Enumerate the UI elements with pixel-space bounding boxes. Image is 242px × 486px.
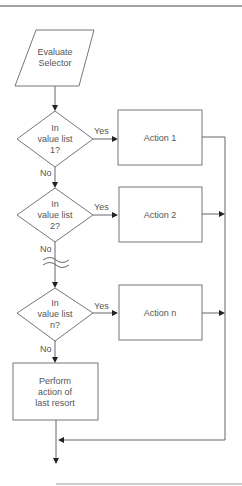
- start-label-line-1: Evaluate: [37, 47, 72, 57]
- fallback-line-1: Perform: [39, 376, 71, 386]
- arrow-head-icon: [219, 310, 225, 316]
- arrow-head-icon: [52, 282, 58, 288]
- decision-1-line-2: value list: [37, 134, 73, 144]
- flowchart-diagram: Evaluate Selector In value list 1? Yes A…: [0, 0, 242, 486]
- decision-n: In value list n?: [17, 288, 93, 341]
- arrow-head-icon: [53, 458, 59, 464]
- decision-n-line-1: In: [51, 298, 59, 308]
- decision-1-yes-label: Yes: [94, 126, 109, 136]
- action-2-box: Action 2: [119, 187, 202, 242]
- start-evaluate-selector: Evaluate Selector: [15, 30, 94, 86]
- fallback-line-3: last resort: [35, 398, 75, 408]
- break-symbol-icon: [43, 258, 69, 268]
- decision-1: In value list 1?: [17, 111, 93, 167]
- decision-2: In value list 2?: [17, 188, 93, 242]
- arrow-head-icon: [52, 182, 58, 188]
- arrow-head-icon: [112, 212, 118, 218]
- fallback-action-box: Perform action of last resort: [13, 363, 98, 420]
- action-1-box: Action 1: [118, 110, 202, 165]
- decision-1-line-1: In: [51, 123, 59, 133]
- arrow-head-icon: [112, 136, 118, 142]
- arrow-head-icon: [112, 310, 118, 316]
- decision-n-line-3: n?: [50, 320, 60, 330]
- arrow-head-icon: [219, 211, 225, 217]
- arrow-head-icon: [52, 105, 58, 111]
- action-n-box: Action n: [119, 285, 202, 340]
- arrow-head-icon: [58, 437, 64, 443]
- action-2-label: Action 2: [144, 210, 177, 220]
- decision-2-line-1: In: [51, 199, 59, 209]
- decision-2-line-2: value list: [37, 210, 73, 220]
- decision-n-no-label: No: [40, 344, 52, 354]
- decision-2-yes-label: Yes: [94, 202, 109, 212]
- decision-n-line-2: value list: [37, 309, 73, 319]
- connector-action-1-out: [202, 137, 225, 440]
- decision-1-line-3: 1?: [50, 145, 60, 155]
- action-n-label: Action n: [144, 308, 177, 318]
- decision-1-no-label: No: [40, 168, 52, 178]
- decision-n-yes-label: Yes: [94, 301, 109, 311]
- action-1-label: Action 1: [144, 133, 177, 143]
- decision-2-no-label: No: [40, 244, 52, 254]
- start-label-line-2: Selector: [38, 58, 71, 68]
- fallback-line-2: action of: [38, 387, 73, 397]
- decision-2-line-3: 2?: [50, 221, 60, 231]
- arrow-head-icon: [52, 357, 58, 363]
